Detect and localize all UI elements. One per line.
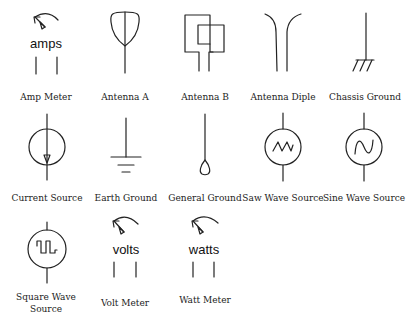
chassis-ground-label: Chassis Ground [320, 91, 410, 103]
chassis-ground-icon [353, 13, 374, 71]
saw-wave-source-label: Saw Wave Source [238, 192, 328, 204]
earth-ground-icon [111, 118, 141, 172]
square-wave-source-icon [28, 222, 66, 283]
general-ground-icon [200, 114, 209, 175]
current-source-label: Current Source [2, 192, 92, 204]
sine-wave-source-label: Sine Wave Source [319, 192, 409, 204]
antenna-a-icon [111, 12, 139, 73]
antenna-a-label: Antenna A [80, 91, 170, 103]
watt-meter-label: Watt Meter [160, 294, 250, 306]
volt-meter-unit-text: volts [96, 243, 156, 257]
antenna-diple-label: Antenna Diple [238, 91, 328, 103]
volt-meter-label: Volt Meter [80, 297, 170, 309]
amp-meter-unit-text: amps [16, 37, 76, 51]
sine-wave-source-icon [346, 113, 382, 181]
general-ground-label: General Ground [160, 192, 250, 204]
symbol-chart: amps volts watts Amp Meter Antenna A Ant… [0, 0, 417, 319]
saw-wave-source-icon [265, 113, 301, 181]
antenna-diple-icon [265, 14, 301, 71]
current-source-icon [29, 114, 65, 180]
earth-ground-label: Earth Ground [81, 192, 171, 204]
antenna-b-icon [185, 15, 224, 71]
amp-meter-label: Amp Meter [1, 91, 91, 103]
square-wave-source-label: Square Wave Source [10, 291, 82, 315]
antenna-b-label: Antenna B [160, 91, 250, 103]
watt-meter-unit-text: watts [174, 243, 234, 257]
